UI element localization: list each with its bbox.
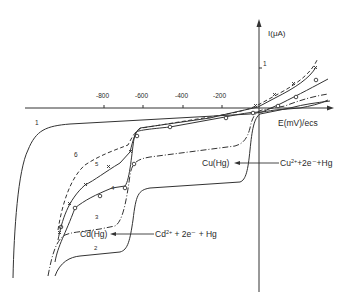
curve-label-5: 5 xyxy=(95,161,99,167)
curve-label-2: 2 xyxy=(94,245,98,251)
curve-6 xyxy=(58,58,318,230)
curve-label-3: 3 xyxy=(95,214,99,220)
y-axis-label: I(μA) xyxy=(268,29,286,38)
cd-reaction-label: Cd2+ + 2e⁻ + Hg xyxy=(155,229,217,240)
y-axis-arrow-icon xyxy=(257,19,262,27)
cd-arrow-head-icon xyxy=(110,232,116,236)
cu-arrow-head-icon xyxy=(234,161,240,165)
x-axis-arrow-icon xyxy=(327,106,334,111)
cu-reaction-base: Cu xyxy=(280,158,291,168)
x-tick-label-m600: -600 xyxy=(135,92,148,99)
curve-4-markers xyxy=(59,78,318,229)
cd-reaction-base: Cd xyxy=(155,229,166,239)
x-tick-label-m200: -200 xyxy=(213,92,226,99)
x-axis-label: E(mV)/ecs xyxy=(278,118,318,128)
cd-reaction-rest: + 2e⁻ + Hg xyxy=(172,229,217,239)
x-tick-label-m800: -800 xyxy=(96,92,109,99)
cu-product-label: Cu(Hg) xyxy=(202,158,230,168)
curve-label-6: 6 xyxy=(74,151,78,158)
cd-product-label: Cd(Hg) xyxy=(80,229,108,239)
cu-reaction-label: Cu2++2e⁻+Hg xyxy=(280,158,333,169)
y-tick-label-1: 1 xyxy=(263,60,267,67)
curve-label-1: 1 xyxy=(35,119,39,126)
cu-reaction-rest: +2e⁻+Hg xyxy=(297,158,333,168)
polarogram-chart: -800 -600 -400 -200 1 I(μA) E(mV)/ecs 1 … xyxy=(0,0,361,296)
x-tick-label-m400: -400 xyxy=(175,92,188,99)
